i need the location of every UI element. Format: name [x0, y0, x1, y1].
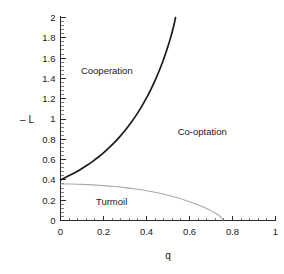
x-axis-title: q	[165, 250, 171, 261]
region-label-cooperation: Cooperation	[81, 65, 133, 76]
y-tick-label: 1.2	[42, 93, 55, 104]
phase-diagram-figure: 00.20.40.60.811.21.41.61.82 00.20.40.60.…	[0, 0, 284, 274]
y-tick-label: 0.4	[42, 174, 55, 185]
y-tick-label: 1.6	[42, 53, 55, 64]
x-tick-label: 0	[58, 226, 63, 237]
x-tick-label: 0.4	[140, 226, 153, 237]
y-tick-label: 0.8	[42, 134, 55, 145]
x-tick-label: 0.6	[183, 226, 196, 237]
y-tick-label: 0.6	[42, 154, 55, 165]
x-tick-label: 0.8	[226, 226, 239, 237]
region-label-co-optation: Co-optation	[178, 126, 227, 137]
y-axis-title: – L	[20, 114, 34, 125]
x-tick-label: 0.2	[97, 226, 110, 237]
y-tick-label: 1	[50, 113, 55, 124]
y-tick-label: 1.4	[42, 73, 55, 84]
y-tick-label: 1.8	[42, 32, 55, 43]
x-tick-label: 1	[273, 226, 278, 237]
phase-diagram-chart: 00.20.40.60.811.21.41.61.82 00.20.40.60.…	[0, 0, 284, 274]
y-tick-label: 0.2	[42, 195, 55, 206]
y-tick-label: 2	[50, 12, 55, 23]
region-label-turmoil: Turmoil	[96, 196, 127, 207]
y-tick-label: 0	[50, 215, 55, 226]
